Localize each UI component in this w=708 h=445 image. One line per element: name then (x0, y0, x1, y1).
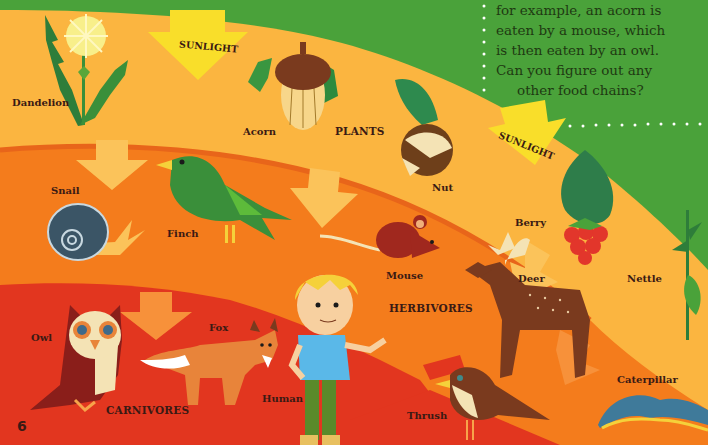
label-thrush: Thrush (407, 411, 447, 421)
label-finch: Finch (167, 229, 199, 239)
band-label-herbivores: HERBIVORES (389, 303, 473, 314)
intro-line: Can you figure out any (490, 60, 708, 80)
intro-text: for example, an acorn is eaten by a mous… (490, 0, 708, 100)
label-human: Human (262, 394, 303, 404)
label-acorn: Acorn (243, 127, 276, 137)
intro-line: other food chains? (490, 80, 708, 100)
label-snail: Snail (51, 186, 80, 196)
food-chain-page: for example, an acorn is eaten by a mous… (0, 0, 708, 445)
label-owl: Owl (31, 333, 52, 343)
intro-line: for example, an acorn is (490, 0, 708, 20)
label-deer: Deer (518, 274, 545, 284)
intro-line: is then eaten by an owl. (490, 40, 708, 60)
label-fox: Fox (209, 323, 228, 333)
label-berry: Berry (515, 218, 546, 228)
label-mouse: Mouse (386, 271, 423, 281)
label-dandelion: Dandelion (12, 98, 69, 108)
band-label-carnivores: CARNIVORES (106, 405, 189, 416)
label-nut: Nut (432, 183, 453, 193)
page-number: 6 (17, 418, 27, 434)
band-label-plants: PLANTS (335, 126, 385, 137)
label-caterpillar: Caterpillar (617, 375, 678, 385)
intro-line: eaten by a mouse, which (490, 20, 708, 40)
label-nettle: Nettle (627, 274, 662, 284)
